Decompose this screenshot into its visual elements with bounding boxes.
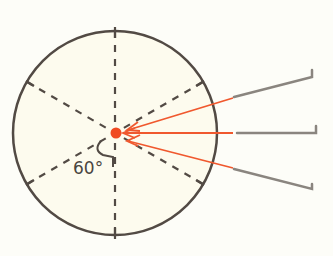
pointer-middle-icon	[237, 126, 316, 133]
pointer-lower-icon	[234, 169, 312, 189]
center-point	[111, 128, 122, 139]
angle-label: 60°	[73, 158, 103, 178]
pointers	[234, 70, 316, 189]
diagram-canvas	[0, 0, 333, 256]
pointer-upper-icon	[234, 70, 312, 97]
